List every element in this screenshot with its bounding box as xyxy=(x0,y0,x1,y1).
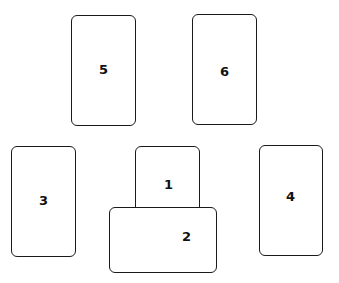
card-2-number: 2 xyxy=(182,229,191,244)
card-2: 2 xyxy=(109,207,217,273)
card-5: 5 xyxy=(71,15,136,126)
card-6-number: 6 xyxy=(220,64,229,79)
card-3-number: 3 xyxy=(39,193,48,208)
card-4: 4 xyxy=(259,145,323,256)
card-4-number: 4 xyxy=(286,189,295,204)
card-1-number: 1 xyxy=(164,177,173,192)
card-5-number: 5 xyxy=(99,62,108,77)
card-6: 6 xyxy=(192,14,257,125)
card-3: 3 xyxy=(11,146,76,257)
